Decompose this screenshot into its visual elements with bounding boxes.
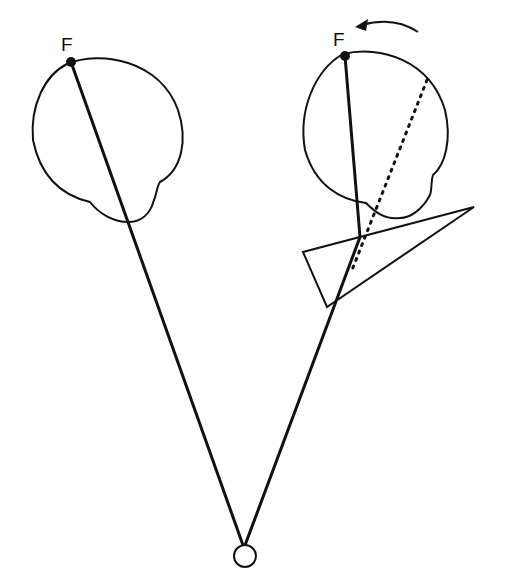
rotation-arrow-head: [355, 19, 368, 31]
left-eye-outline: [33, 58, 183, 222]
right-fixation-point: [340, 51, 350, 61]
right-eye-outline: [303, 52, 447, 219]
nodal-point: [234, 545, 256, 567]
diagram-svg: F F: [0, 0, 506, 579]
right-dotted-axis: [352, 80, 427, 270]
diagram-canvas: F F: [0, 0, 506, 579]
right-fixation-label: F: [333, 29, 345, 50]
right-visual-axis: [244, 56, 360, 548]
rotation-arrow: [362, 22, 418, 32]
left-fixation-point: [66, 57, 76, 67]
left-fixation-label: F: [61, 34, 73, 55]
left-visual-axis: [71, 62, 244, 548]
prism: [303, 207, 474, 307]
